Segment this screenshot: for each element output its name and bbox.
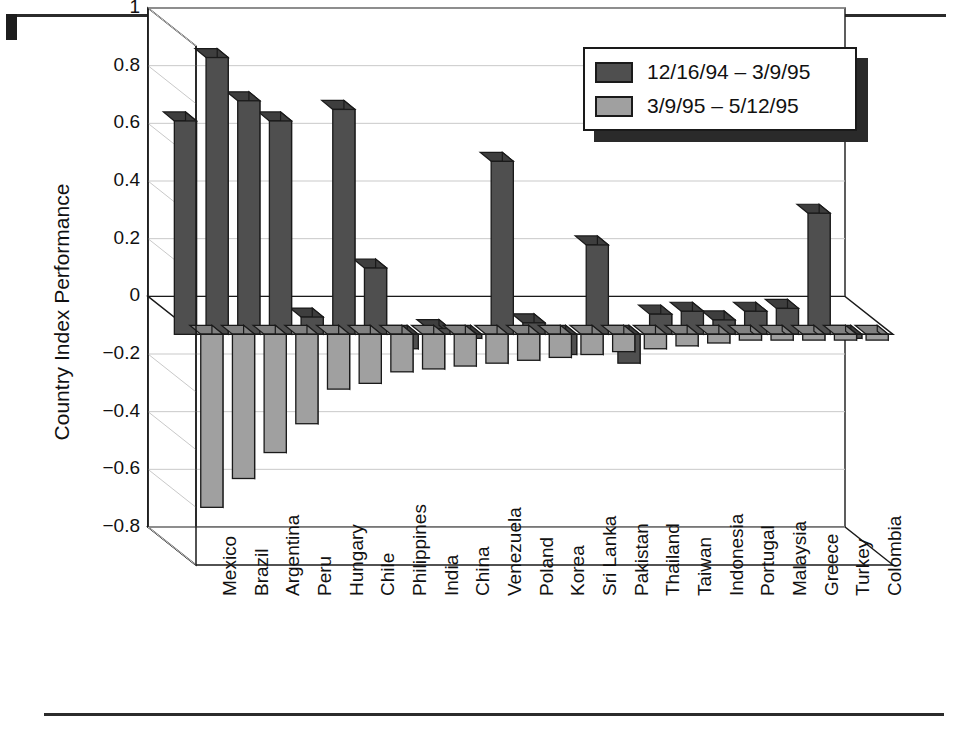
y-tick-label: 0.8 [74,54,140,76]
x-category-label: Venezuela [504,507,526,596]
y-tick-label: 0 [74,284,140,306]
x-category-label: Portugal [757,525,779,596]
x-category-label: Peru [314,556,336,596]
chart-plot-area: 10.80.60.40.20−0.2−0.4−0.6−0.8 Country I… [0,0,960,744]
x-category-label: Hungary [346,524,368,596]
y-tick-label: −0.8 [74,515,140,537]
y-tick-label: 0.4 [74,169,140,191]
legend-swatch-period-1 [595,62,633,83]
y-axis-title: Country Index Performance [50,162,74,462]
x-category-label: Taiwan [694,537,716,596]
y-tick-label: −0.2 [74,342,140,364]
x-category-label: Poland [536,537,558,596]
x-category-label: China [472,546,494,596]
x-category-label: Pakistan [631,523,653,596]
x-category-label: Sri Lanka [599,516,621,596]
x-category-label: Korea [567,545,589,596]
x-category-label: India [441,555,463,596]
legend-label-period-1: 12/16/94 – 3/9/95 [647,60,810,84]
x-category-label: Argentina [282,515,304,596]
y-tick-label: 1 [74,0,140,18]
x-category-label: Colombia [884,516,906,596]
chart-legend: 12/16/94 – 3/9/95 3/9/95 – 5/12/95 [583,47,857,131]
y-tick-label: 0.6 [74,111,140,133]
y-tick-label: −0.6 [74,457,140,479]
x-category-label: Mexico [219,536,241,596]
y-tick-label: 0.2 [74,227,140,249]
x-category-label: Turkey [852,539,874,596]
x-category-label: Brazil [251,548,273,596]
legend-label-period-2: 3/9/95 – 5/12/95 [647,94,799,118]
y-tick-label: −0.4 [74,400,140,422]
x-category-label: Malaysia [789,521,811,596]
x-category-label: Greece [821,534,843,596]
legend-item-period-2[interactable]: 3/9/95 – 5/12/95 [595,89,845,123]
x-category-label: Thailand [662,523,684,596]
x-category-label: Philippines [409,504,431,596]
figure-container: 10.80.60.40.20−0.2−0.4−0.6−0.8 Country I… [0,0,960,744]
legend-swatch-period-2 [595,96,633,117]
x-category-label: Chile [377,553,399,596]
x-category-label: Indonesia [726,514,748,596]
legend-item-period-1[interactable]: 12/16/94 – 3/9/95 [595,55,845,89]
